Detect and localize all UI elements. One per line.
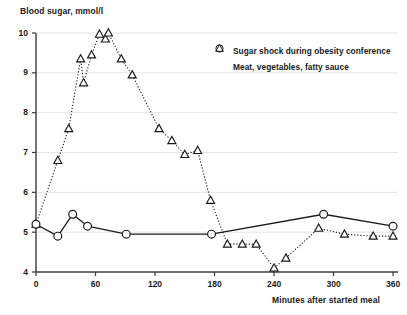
- data-point-triangle: [54, 156, 62, 163]
- data-point-triangle: [88, 51, 96, 58]
- legend-item-sugar-shock[interactable]: Sugar shock during obesity conference: [215, 44, 391, 57]
- chart-legend: Sugar shock during obesity conference Me…: [215, 44, 391, 76]
- data-point-triangle: [181, 150, 189, 157]
- data-point-triangle: [315, 224, 323, 231]
- circle-marker-icon: [215, 61, 228, 72]
- y-tick-label: 4: [10, 267, 28, 277]
- y-tick-label: 6: [10, 187, 28, 197]
- data-point-triangle: [223, 240, 231, 247]
- y-tick-label: 5: [10, 227, 28, 237]
- x-tick-label: 120: [140, 279, 170, 289]
- data-point-circle: [389, 222, 397, 230]
- data-point-triangle: [80, 79, 88, 86]
- y-tick-label: 10: [10, 28, 28, 38]
- y-tick-label: 9: [10, 67, 28, 77]
- data-point-circle: [320, 210, 328, 218]
- y-tick-label: 8: [10, 107, 28, 117]
- x-tick-label: 180: [200, 279, 230, 289]
- x-tick-label: 60: [81, 279, 111, 289]
- data-point-triangle: [207, 196, 215, 203]
- data-point-triangle: [238, 240, 246, 247]
- data-point-circle: [122, 230, 130, 238]
- data-point-triangle: [389, 232, 397, 239]
- data-point-triangle: [270, 264, 278, 271]
- legend-label-meat-vegetables: Meat, vegetables, fatty sauce: [233, 62, 349, 72]
- y-tick-label: 7: [10, 147, 28, 157]
- data-point-triangle: [194, 146, 202, 153]
- data-point-circle: [54, 232, 62, 240]
- data-point-circle: [69, 210, 77, 218]
- data-point-triangle: [77, 55, 85, 62]
- x-tick-label: 360: [378, 279, 407, 289]
- data-point-triangle: [117, 55, 125, 62]
- data-point-triangle: [168, 136, 176, 143]
- x-tick-label: 240: [259, 279, 289, 289]
- data-point-triangle: [128, 71, 136, 78]
- data-point-triangle: [252, 240, 260, 247]
- legend-label-sugar-shock: Sugar shock during obesity conference: [233, 46, 391, 56]
- data-point-circle: [208, 230, 216, 238]
- data-point-triangle: [155, 124, 163, 131]
- legend-item-meat-vegetables[interactable]: Meat, vegetables, fatty sauce: [215, 60, 391, 73]
- data-point-triangle: [340, 230, 348, 237]
- data-point-triangle: [104, 29, 112, 36]
- data-point-circle: [84, 222, 92, 230]
- x-tick-label: 0: [21, 279, 51, 289]
- chart-container: Blood sugar, mmol/l Minutes after starte…: [0, 0, 407, 315]
- data-point-triangle: [95, 30, 103, 37]
- data-point-triangle: [65, 124, 73, 131]
- data-point-circle: [32, 220, 40, 228]
- x-tick-label: 300: [319, 279, 349, 289]
